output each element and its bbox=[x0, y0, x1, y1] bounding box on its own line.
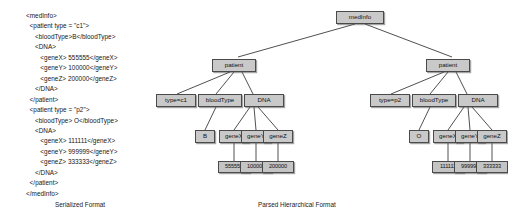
tree-leaf-genez-value-2[interactable]: 333333 bbox=[476, 161, 508, 173]
tree-node-bloodtype-1[interactable]: bloodType bbox=[198, 94, 242, 107]
tree-node-bloodtype-value-2[interactable]: O bbox=[409, 130, 429, 143]
tree-node-patient-2[interactable]: patient bbox=[426, 59, 470, 72]
tree-node-genez-2[interactable]: geneZ bbox=[477, 130, 507, 143]
caption-parsed-hierarchical-format: Parsed Hierarchical Format bbox=[258, 201, 336, 208]
tree-node-dna-2[interactable]: DNA bbox=[458, 94, 498, 107]
tree-leaf-genez-value-1[interactable]: 200000 bbox=[262, 161, 294, 173]
tree-node-bloodtype-value-1[interactable]: B bbox=[195, 130, 215, 143]
caption-serialized-format: Serialized Format bbox=[55, 201, 105, 208]
tree-node-type-attr-2[interactable]: type=p2 bbox=[370, 94, 410, 107]
tree-node-genez-1[interactable]: geneZ bbox=[263, 130, 293, 143]
tree-node-bloodtype-2[interactable]: bloodType bbox=[412, 94, 456, 107]
tree-node-dna-1[interactable]: DNA bbox=[244, 94, 284, 107]
tree-node-type-attr-1[interactable]: type=c1 bbox=[156, 94, 196, 107]
tree-node-patient-1[interactable]: patient bbox=[212, 59, 256, 72]
parsed-tree-block: medInfo patient type=c1 bloodType DNA B … bbox=[150, 0, 500, 196]
tree-node-root-medinfo[interactable]: medInfo bbox=[336, 11, 384, 24]
